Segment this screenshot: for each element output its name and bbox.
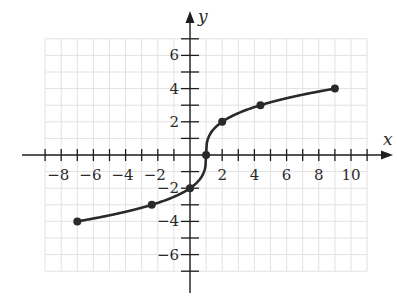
y-tick-label: −2 (157, 179, 179, 197)
data-point (218, 118, 226, 126)
data-point (331, 85, 339, 93)
y-tick-label: 4 (169, 80, 179, 98)
x-tick-label: 8 (314, 166, 324, 184)
x-tick-label: −4 (112, 166, 134, 184)
x-tick-label: 4 (250, 166, 260, 184)
x-tick-label: −6 (79, 166, 101, 184)
x-tick-label: 6 (282, 166, 292, 184)
x-tick-label: −8 (47, 166, 69, 184)
y-axis-arrow-icon (186, 11, 195, 23)
y-tick-label: −4 (157, 212, 179, 230)
data-point (186, 184, 194, 192)
x-tick-label: 10 (341, 166, 360, 184)
y-tick-label: 6 (169, 46, 179, 64)
data-point (73, 217, 81, 225)
y-axis-label: y (197, 6, 208, 26)
data-point (202, 151, 210, 159)
data-point (148, 201, 156, 209)
x-axis-arrow-icon (381, 151, 393, 160)
function-graph: −8−6−4−2246810642−2−4−6 x y (0, 0, 397, 307)
x-tick-label: 2 (217, 166, 227, 184)
y-tick-label: −6 (157, 246, 179, 264)
x-axis-label: x (383, 129, 393, 149)
data-point (256, 101, 264, 109)
y-tick-label: 2 (169, 113, 179, 131)
